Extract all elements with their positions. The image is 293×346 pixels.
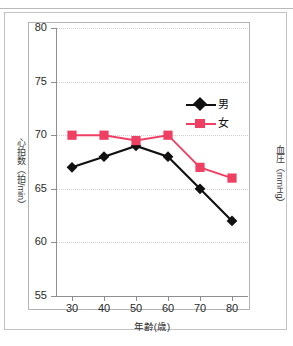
top-horizontal-rule — [0, 8, 293, 9]
legend-label: 女 — [216, 118, 229, 129]
gridline — [56, 189, 248, 190]
x-tick-label: 30 — [57, 302, 87, 314]
legend-item-male: 男 — [186, 95, 244, 114]
gridline — [56, 28, 248, 29]
y-axis-line — [56, 28, 57, 296]
x-tick-label: 60 — [153, 302, 183, 314]
legend-diamond-icon — [193, 97, 207, 111]
y-tick-label: 80 — [25, 21, 47, 33]
legend-item-female: 女 — [186, 114, 244, 133]
plot-frame — [28, 22, 250, 310]
y-tick-label: 65 — [25, 182, 47, 194]
x-tick-label: 40 — [89, 302, 119, 314]
legend-square-icon — [195, 119, 205, 128]
gridline — [56, 82, 248, 83]
legend-swatch — [186, 98, 216, 112]
gridline — [56, 242, 248, 243]
y-tick-label: 75 — [25, 75, 47, 87]
x-axis-title: 年齢(歳) — [56, 319, 248, 333]
x-axis-line — [56, 296, 248, 297]
y-tick-label: 55 — [25, 289, 47, 301]
y-tick-label: 60 — [25, 235, 47, 247]
legend-swatch — [186, 117, 216, 131]
x-tick-label: 70 — [185, 302, 215, 314]
y-axis-title-left: 心拍数（拍/min） — [4, 118, 26, 230]
y-axis-title-right: 血圧（mmHg） — [263, 128, 285, 224]
y-tick-label: 70 — [25, 128, 47, 140]
x-tick-label: 80 — [217, 302, 247, 314]
legend-label: 男 — [216, 99, 229, 110]
x-tick-label: 50 — [121, 302, 151, 314]
gridline — [56, 135, 248, 136]
chart-legend: 男女 — [186, 95, 244, 133]
